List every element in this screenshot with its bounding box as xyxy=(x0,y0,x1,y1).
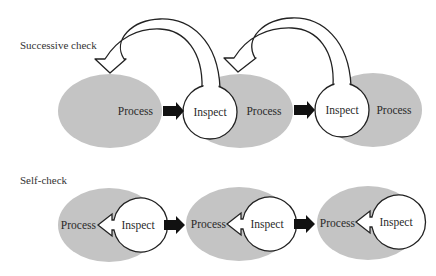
inspect-label-3: Inspect xyxy=(379,216,413,229)
successive-check-section: Successive check Process Inspect Process… xyxy=(20,18,422,148)
flow-arrow-1 xyxy=(163,102,184,120)
inspect-label-2: Inspect xyxy=(250,218,284,231)
process-label-1: Process xyxy=(118,105,154,117)
inspect-label-2: Inspect xyxy=(325,104,359,117)
section-title-self-check: Self-check xyxy=(20,174,68,186)
inspect-label-1: Inspect xyxy=(121,219,155,232)
self-check-section: Self-check Process Inspect Process Inspe… xyxy=(20,174,426,262)
process-label-1: Process xyxy=(61,219,97,231)
flow-arrow-2 xyxy=(294,101,315,119)
inspect-label-1: Inspect xyxy=(193,106,227,119)
flow-arrow-2 xyxy=(294,215,315,233)
section-title-successive-check: Successive check xyxy=(20,39,97,51)
process-label-2: Process xyxy=(246,105,282,117)
process-label-3: Process xyxy=(320,217,356,229)
process-label-2: Process xyxy=(191,218,227,230)
check-methods-diagram: Successive check Process Inspect Process… xyxy=(0,0,436,276)
process-label-3: Process xyxy=(376,104,412,116)
